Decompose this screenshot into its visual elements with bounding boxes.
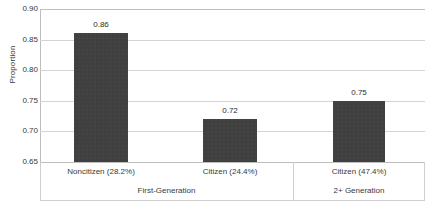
axis-separator	[40, 162, 41, 201]
bar	[333, 101, 385, 162]
axis-separator	[293, 162, 294, 201]
category-label-row: Noncitizen (28.2%)Citizen (24.4%)Citizen…	[40, 162, 424, 181]
group-label-row: First-Generation2+ Generation	[40, 181, 424, 200]
bar	[74, 33, 128, 162]
y-axis-tick-label: 0.75	[12, 97, 38, 105]
axis-separator	[424, 162, 425, 201]
y-axis-tick-label: 0.90	[12, 5, 38, 13]
category-label: Noncitizen (28.2%)	[48, 162, 154, 181]
y-axis-tick-label: 0.70	[12, 127, 38, 135]
plot-area: 0.860.720.75	[40, 9, 425, 162]
group-label: First-Generation	[40, 181, 293, 201]
bar	[203, 119, 257, 162]
group-label: 2+ Generation	[293, 181, 425, 201]
bar-value-label: 0.86	[74, 21, 128, 29]
y-axis-tick-labels: 0.900.850.800.750.700.65	[10, 0, 38, 206]
bar-value-label: 0.72	[203, 107, 257, 115]
y-axis-tick-label: 0.65	[12, 158, 38, 166]
category-label: Citizen (24.4%)	[177, 162, 283, 181]
gridline	[40, 9, 425, 10]
y-axis-tick-label: 0.80	[12, 66, 38, 74]
y-axis-tick-label: 0.85	[12, 36, 38, 44]
category-label: Citizen (47.4%)	[307, 162, 411, 181]
category-axis: Noncitizen (28.2%)Citizen (24.4%)Citizen…	[40, 162, 425, 201]
bar-value-label: 0.75	[333, 89, 385, 97]
bar-chart: Proportion 0.900.850.800.750.700.65 0.86…	[0, 0, 430, 206]
